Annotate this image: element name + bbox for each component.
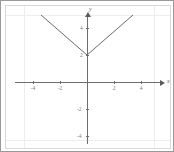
curve-right-arm: [87, 15, 133, 55]
figure-frame: x y -4 -2 2 4 4 2 -2 -4: [0, 0, 174, 152]
curve-vertex-point: [86, 54, 88, 56]
plot-area: x y -4 -2 2 4 4 2 -2 -4: [5, 5, 171, 149]
curve-absolute-value: [6, 6, 171, 149]
curve-left-arm: [41, 15, 87, 55]
